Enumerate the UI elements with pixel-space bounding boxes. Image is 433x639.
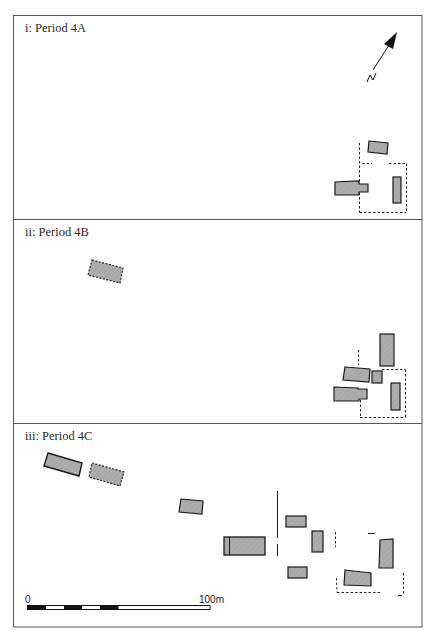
building-4c-5	[286, 516, 306, 527]
building-4c-2-dashed	[89, 463, 124, 486]
north-arrow-icon	[367, 32, 397, 82]
building-4a-north	[368, 141, 388, 154]
building-4c-6	[312, 531, 323, 552]
building-4b-tall	[380, 334, 394, 366]
building-4c-1	[44, 453, 82, 476]
building-4a-west	[335, 181, 368, 195]
building-4a-east	[393, 177, 401, 203]
scale-bar	[28, 606, 211, 610]
building-4b-dashed	[88, 260, 123, 283]
building-4b-small	[372, 371, 382, 383]
figure-frame	[14, 16, 423, 628]
building-4b-middle	[343, 367, 370, 382]
panel-label-period-4b: ii: Period 4B	[25, 225, 89, 240]
panel-period-4b-plan	[88, 260, 406, 418]
scale-label-end: 100m	[199, 594, 224, 605]
site-plan-figure: i: Period 4A ii: Period 4B iii: Period 4…	[0, 0, 433, 639]
building-4c-3	[179, 499, 203, 514]
panel-label-period-4a: i: Period 4A	[25, 21, 86, 36]
panel-period-4c-plan	[44, 453, 404, 596]
site-plan-drawing	[0, 0, 433, 639]
scale-label-start: 0	[25, 594, 31, 605]
panel-label-period-4c: iii: Period 4C	[25, 429, 92, 444]
building-4b-west	[334, 387, 367, 401]
panel-period-4a-plan	[335, 141, 407, 213]
building-4c-7	[288, 567, 307, 578]
building-4c-8	[379, 539, 393, 568]
building-4c-9	[344, 570, 371, 586]
building-4b-east	[391, 383, 400, 410]
building-4c-4-large	[224, 537, 265, 555]
